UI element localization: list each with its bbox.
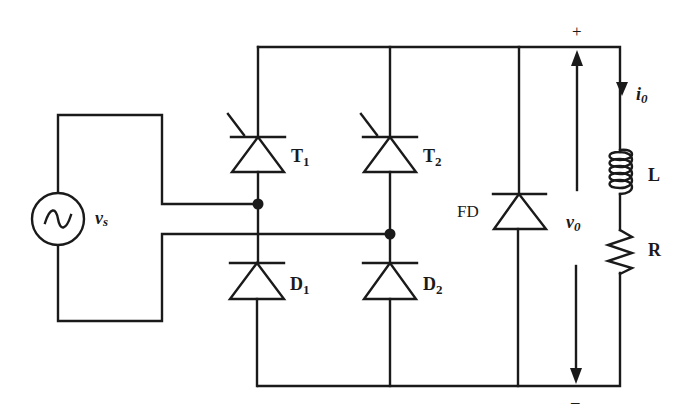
fd-label: FD (457, 202, 479, 221)
inductor-label: L (648, 165, 660, 185)
freewheeling-diode (493, 47, 546, 386)
plus-sign: + (572, 22, 582, 41)
inductor-icon (610, 150, 633, 230)
thyristor-t1-icon (228, 114, 285, 172)
circuit-diagram: vs T1 D1 (0, 0, 697, 417)
d1-label: D1 (290, 274, 310, 297)
right-leg (361, 47, 417, 386)
left-leg (228, 47, 285, 386)
current-arrow-icon (616, 82, 628, 96)
t1-label: T1 (291, 146, 310, 169)
diode-d1-icon (230, 263, 284, 299)
wire-source-bottom (58, 234, 390, 321)
diode-d2-icon (363, 263, 417, 299)
freewheeling-diode-icon (493, 194, 546, 229)
resistor-label: R (648, 240, 662, 260)
output-voltage-label: v0 (566, 212, 581, 234)
wire-source-top (58, 115, 258, 204)
junction-dot (385, 229, 396, 240)
minus-sign: – (570, 392, 580, 411)
output-current-label: i0 (636, 84, 648, 106)
arrow-up-icon (571, 50, 583, 66)
d2-label: D2 (423, 274, 443, 297)
junction-dot (253, 199, 264, 210)
top-bus (258, 47, 620, 152)
resistor-icon (608, 230, 632, 274)
sine-wave-icon (45, 210, 71, 227)
source-label: vs (95, 208, 108, 229)
ac-source (32, 115, 390, 321)
t2-label: T2 (423, 146, 442, 169)
arrow-down-icon (570, 368, 582, 384)
